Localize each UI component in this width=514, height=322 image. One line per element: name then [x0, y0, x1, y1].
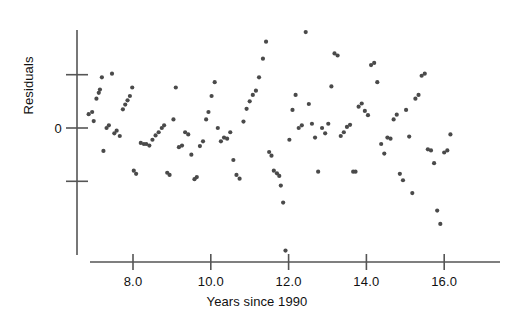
data-point	[416, 93, 420, 97]
y-axis-title: Residuals	[21, 31, 36, 141]
data-point	[213, 80, 217, 84]
data-point	[162, 123, 166, 127]
data-point	[254, 89, 258, 93]
data-point	[326, 122, 330, 126]
data-point	[121, 107, 125, 111]
data-point	[300, 123, 304, 127]
data-point	[448, 132, 452, 136]
data-point	[407, 134, 411, 138]
data-point	[401, 178, 405, 182]
data-point	[147, 143, 151, 147]
data-point	[283, 248, 287, 252]
data-point	[388, 137, 392, 141]
data-point	[313, 135, 317, 139]
data-point	[339, 134, 343, 138]
data-point	[264, 40, 268, 44]
data-point	[257, 75, 261, 79]
data-point	[348, 123, 352, 127]
data-point	[228, 130, 232, 134]
data-point	[357, 105, 361, 109]
data-point	[216, 126, 220, 130]
data-point	[157, 130, 161, 134]
data-point	[234, 173, 238, 177]
data-point	[398, 172, 402, 176]
data-point	[153, 133, 157, 137]
data-point	[382, 151, 386, 155]
data-point	[438, 222, 442, 226]
data-point	[204, 117, 208, 121]
data-point	[118, 134, 122, 138]
data-point	[360, 101, 364, 105]
data-point	[87, 112, 91, 116]
data-point	[404, 108, 408, 112]
data-point	[101, 149, 105, 153]
data-point	[134, 172, 138, 176]
data-point	[128, 94, 132, 98]
y-tick-label: 0	[55, 121, 62, 136]
data-point	[231, 158, 235, 162]
data-point	[115, 129, 119, 133]
data-point	[130, 85, 134, 89]
data-point	[353, 170, 357, 174]
data-point	[219, 139, 223, 143]
data-point	[201, 139, 205, 143]
data-point	[279, 183, 283, 187]
data-point	[110, 72, 114, 76]
data-point	[174, 85, 178, 89]
axes-group	[77, 30, 500, 262]
data-point	[125, 98, 129, 102]
data-point	[316, 170, 320, 174]
data-point	[195, 175, 199, 179]
data-point	[237, 177, 241, 181]
data-point	[100, 75, 104, 79]
data-point	[198, 144, 202, 148]
data-point	[323, 131, 327, 135]
data-point	[277, 174, 281, 178]
data-points-group	[87, 30, 453, 253]
data-point	[320, 126, 324, 130]
data-point	[171, 117, 175, 121]
x-axis-title: Years since 1990	[0, 294, 514, 309]
data-point	[281, 201, 285, 205]
x-tick-label: 16.0	[431, 274, 457, 289]
data-point	[150, 138, 154, 142]
data-point	[261, 57, 265, 61]
x-tick-label: 10.0	[198, 274, 224, 289]
data-point	[435, 209, 439, 213]
data-point	[92, 119, 96, 123]
data-point	[379, 142, 383, 146]
data-point	[290, 108, 294, 112]
data-point	[287, 138, 291, 142]
data-point	[98, 88, 102, 92]
data-point	[410, 191, 414, 195]
data-point	[375, 80, 379, 84]
data-point	[180, 143, 184, 147]
data-point	[269, 154, 273, 158]
data-point	[248, 99, 252, 103]
data-point	[107, 123, 111, 127]
x-tick-label: 8.0	[124, 274, 143, 289]
scatter-plot-figure: 8.010.012.014.016.0 0 Residuals Years si…	[0, 0, 514, 322]
data-point	[363, 109, 367, 113]
x-tick-label: 14.0	[353, 274, 379, 289]
data-point	[432, 161, 436, 165]
data-point	[429, 148, 433, 152]
data-point	[251, 93, 255, 97]
data-point	[342, 130, 346, 134]
data-point	[392, 117, 396, 121]
data-point	[304, 30, 308, 34]
data-point	[329, 84, 333, 88]
data-point	[209, 94, 213, 98]
data-point	[267, 150, 271, 154]
data-point	[186, 132, 190, 136]
data-point	[294, 93, 298, 97]
data-point	[372, 61, 376, 65]
x-tick-label: 12.0	[276, 274, 302, 289]
data-point	[167, 173, 171, 177]
data-point	[241, 120, 245, 124]
data-point	[445, 148, 449, 152]
data-point	[123, 102, 127, 106]
data-point	[413, 97, 417, 101]
data-point	[225, 137, 229, 141]
data-point	[244, 107, 248, 111]
